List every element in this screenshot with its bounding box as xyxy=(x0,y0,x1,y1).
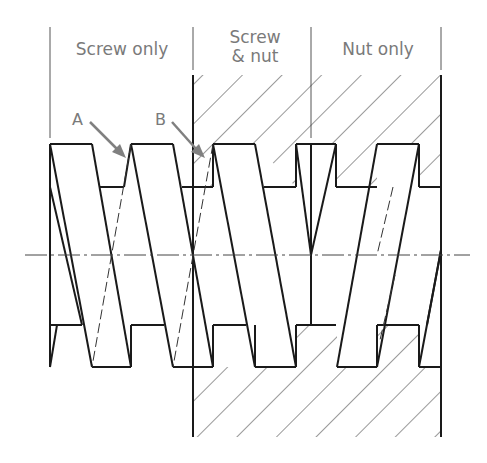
nut-section xyxy=(193,75,441,437)
zone-label-screw-and-nut-line1: Screw xyxy=(200,28,310,47)
zone-label-screw-and-nut: Screw & nut xyxy=(200,28,310,66)
zone-label-screw-only: Screw only xyxy=(62,40,182,59)
callout-label-a: A xyxy=(72,110,83,129)
thread-diagram xyxy=(0,0,487,463)
callout-label-b: B xyxy=(155,110,166,129)
zone-label-nut-only: Nut only xyxy=(318,40,438,59)
callout-arrows xyxy=(90,122,205,158)
zone-label-screw-and-nut-line2: & nut xyxy=(200,47,310,66)
